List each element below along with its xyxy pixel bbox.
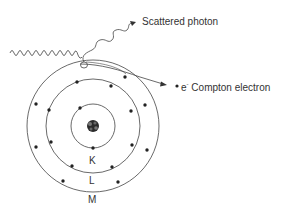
shell-m-label: M bbox=[88, 195, 96, 205]
shell-k-label: K bbox=[89, 156, 96, 166]
shell-l-label: L bbox=[89, 176, 95, 186]
incident-photon-wave bbox=[10, 51, 82, 59]
scattered-photon-label: Scattered photon bbox=[142, 17, 218, 27]
compton-electron-dot bbox=[175, 84, 178, 87]
compton-electron-text: Compton electron bbox=[191, 82, 270, 93]
nucleus-icon bbox=[87, 120, 99, 132]
compton-diagram bbox=[0, 0, 284, 208]
scattered-photon-wave bbox=[83, 23, 132, 62]
compton-electron-track bbox=[80, 64, 163, 84]
compton-electron-label: e- Compton electron bbox=[181, 81, 270, 93]
interaction-point bbox=[81, 62, 88, 68]
compton-electron-track-upper bbox=[86, 62, 126, 74]
compton-electron-arrowhead bbox=[160, 82, 167, 87]
electron-charge: - bbox=[187, 81, 189, 87]
